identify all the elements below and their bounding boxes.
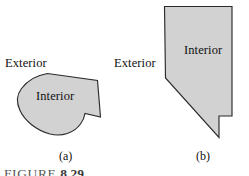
panel-caption-a: (a) bbox=[59, 150, 72, 162]
figure-illustration bbox=[0, 0, 249, 176]
figure-caption-number: 8.29 bbox=[60, 166, 84, 176]
figure-container: Exterior Interior Exterior Interior (a) … bbox=[0, 0, 249, 176]
exterior-label-a: Exterior bbox=[5, 57, 47, 70]
figure-caption-word: FIGURE bbox=[4, 166, 56, 176]
interior-label-b: Interior bbox=[184, 44, 222, 57]
shape-b-nevada-polygon bbox=[165, 7, 233, 138]
shape-a-rounded-blob-polygon bbox=[18, 74, 101, 135]
interior-label-a: Interior bbox=[36, 90, 74, 103]
figure-caption: FIGURE 8.29 bbox=[4, 166, 84, 176]
exterior-label-b: Exterior bbox=[114, 57, 156, 70]
panel-caption-b: (b) bbox=[196, 150, 210, 162]
